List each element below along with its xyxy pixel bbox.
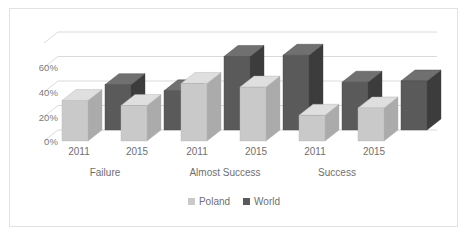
x-year-label: 2011 [56,146,102,157]
x-group-label: Success [297,167,377,178]
legend-swatch-icon [243,198,250,205]
legend-label: World [254,196,280,207]
legend-label: Poland [199,196,230,207]
x-group-label: Failure [70,167,140,178]
x-year-label: 2015 [351,146,397,157]
chart-container: 60% 40% 20% 0% 2011 2015 2011 2015 2011 … [0,0,468,244]
x-year-label: 2011 [292,146,338,157]
legend-item-world[interactable]: World [243,196,280,207]
x-year-label: 2015 [114,146,160,157]
x-year-label: 2011 [174,146,220,157]
x-group-label: Almost Success [170,167,280,178]
legend-swatch-icon [188,198,195,205]
chart-legend: Poland World [0,196,468,207]
legend-item-poland[interactable]: Poland [188,196,230,207]
x-year-label: 2015 [233,146,279,157]
x-axis-labels: 2011 2015 2011 2015 2011 2015 Failure Al… [0,0,468,244]
